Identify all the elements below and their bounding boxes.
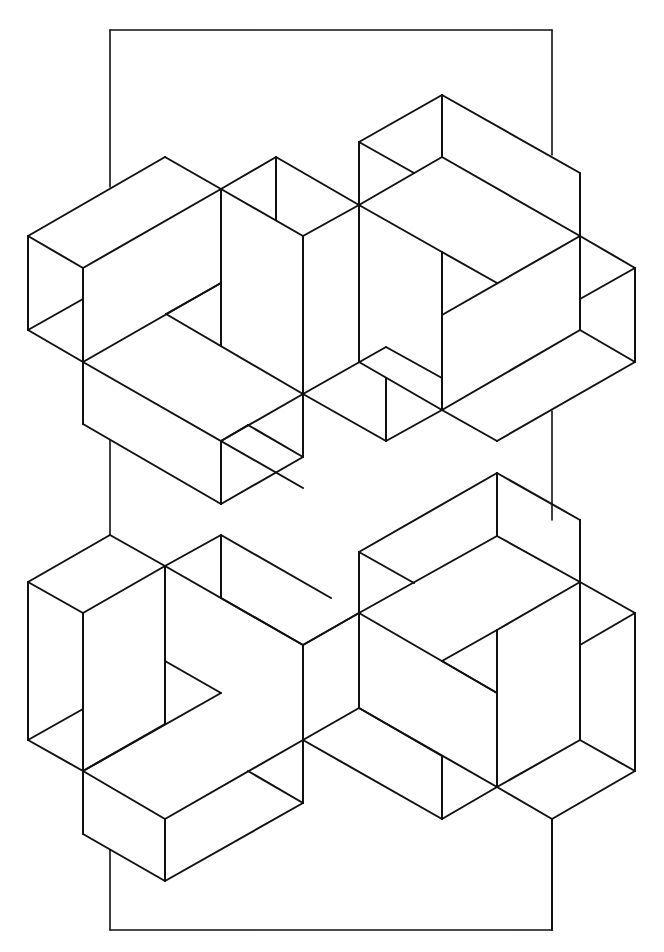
tr-edge-15 <box>580 268 635 299</box>
br-edge-22 <box>303 740 442 819</box>
tr-edge-24 <box>303 394 386 441</box>
tl-edge-15 <box>303 205 359 236</box>
br-edge-13 <box>580 582 635 613</box>
br-edge-1 <box>497 473 580 520</box>
tr-edge-13 <box>580 236 635 268</box>
tl-edge-12 <box>276 157 359 205</box>
tl-edge-3 <box>83 189 221 268</box>
bl-edge-14 <box>221 598 303 645</box>
isometric-drawing <box>0 0 664 952</box>
bl-edge-3 <box>83 566 165 613</box>
tl-edge-21 <box>83 424 221 504</box>
br-edge-18 <box>497 740 580 787</box>
bl-edge-19 <box>83 693 221 771</box>
tr-edge-17 <box>442 330 580 410</box>
bl-edge-1 <box>110 535 165 566</box>
br-edge-19 <box>497 787 552 819</box>
tl-edge-10 <box>166 283 221 314</box>
tr-edge-8 <box>359 205 442 252</box>
tl-edge-27 <box>248 425 303 457</box>
bottom-right-figure <box>303 473 635 930</box>
bl-edge-7 <box>28 709 83 740</box>
tl-edge-2 <box>28 236 83 268</box>
tl-edge-11 <box>221 157 276 189</box>
br-edge-10 <box>442 661 497 693</box>
tr-edge-10 <box>442 252 497 283</box>
tl-edge-7 <box>28 330 83 362</box>
tl-edge-28 <box>221 425 248 441</box>
br-edge-28 <box>359 708 497 787</box>
tr-edge-19 <box>442 410 497 441</box>
bl-edge-23 <box>83 771 165 819</box>
tl-edge-1 <box>165 157 221 189</box>
br-edge-0 <box>359 473 497 552</box>
bl-edge-6 <box>28 740 83 771</box>
tr-edge-16 <box>580 330 635 362</box>
tr-edge-25 <box>386 410 442 441</box>
bl-edge-9 <box>165 661 221 693</box>
tr-edge-21 <box>386 347 442 378</box>
tl-edge-0 <box>28 157 165 236</box>
bl-edge-26 <box>165 803 303 881</box>
tr-edge-4 <box>359 142 414 173</box>
br-edge-12 <box>497 582 580 630</box>
top-left-figure <box>28 157 359 504</box>
bl-edge-10 <box>165 535 221 566</box>
tr-edge-6 <box>359 157 442 205</box>
tr-edge-23 <box>359 362 442 410</box>
br-edge-7 <box>497 536 580 582</box>
tl-edge-22 <box>166 314 303 394</box>
bl-edge-17 <box>303 708 359 740</box>
br-edge-27 <box>442 787 497 819</box>
tl-edge-19 <box>83 362 303 488</box>
bl-edge-27 <box>248 771 303 803</box>
tr-edge-1 <box>442 95 580 173</box>
br-edge-6 <box>359 536 497 613</box>
tl-edge-14 <box>221 189 303 236</box>
bl-edge-21 <box>83 834 165 881</box>
br-edge-20 <box>552 771 635 819</box>
bottom-left-figure <box>28 535 359 881</box>
br-edge-9 <box>442 630 497 661</box>
bl-edge-2 <box>28 582 83 613</box>
br-edge-23 <box>303 613 359 645</box>
tr-edge-11 <box>442 236 580 315</box>
tr-edge-7 <box>442 157 580 236</box>
tr-edge-0 <box>359 95 442 142</box>
bl-edge-0 <box>28 535 110 582</box>
tl-edge-6 <box>28 299 83 330</box>
tr-edge-18 <box>497 362 635 441</box>
br-edge-16 <box>580 613 635 645</box>
bl-edge-25 <box>165 740 303 819</box>
top-right-figure <box>303 95 635 441</box>
bl-edge-12 <box>221 535 331 598</box>
br-edge-4 <box>359 552 414 583</box>
br-edge-17 <box>580 740 635 771</box>
